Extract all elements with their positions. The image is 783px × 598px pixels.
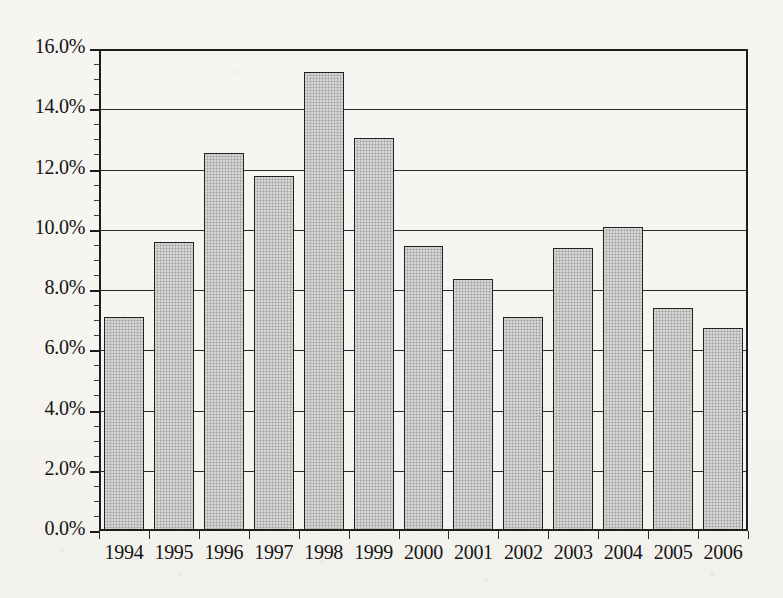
y-tick-14.0% xyxy=(90,109,99,111)
y-axis-label-4.0%: 4.0% xyxy=(0,397,85,420)
x-axis-label-2000: 2000 xyxy=(399,541,449,564)
y-tick-10.0% xyxy=(90,230,99,232)
x-tick-2005 xyxy=(648,531,649,539)
y-tick-2.0% xyxy=(90,471,99,473)
x-tick-end xyxy=(748,531,749,539)
x-tick-2004 xyxy=(598,531,599,539)
x-tick-1999 xyxy=(349,531,350,539)
x-tick-1996 xyxy=(199,531,200,539)
y-axis-label-0.0%: 0.0% xyxy=(0,517,85,540)
y-axis-label-2.0%: 2.0% xyxy=(0,457,85,480)
y-tick-0.0% xyxy=(90,531,99,533)
x-tick-1998 xyxy=(299,531,300,539)
x-tick-1997 xyxy=(249,531,250,539)
x-tick-2006 xyxy=(698,531,699,539)
x-axis-label-2004: 2004 xyxy=(598,541,648,564)
x-axis-label-1994: 1994 xyxy=(99,541,149,564)
y-tick-6.0% xyxy=(90,350,99,352)
x-axis-label-1998: 1998 xyxy=(299,541,349,564)
x-tick-1995 xyxy=(149,531,150,539)
x-axis-label-2005: 2005 xyxy=(648,541,698,564)
plot-area xyxy=(99,49,748,531)
x-axis-label-1996: 1996 xyxy=(199,541,249,564)
y-axis-label-10.0%: 10.0% xyxy=(0,216,85,239)
y-tick-4.0% xyxy=(90,411,99,413)
x-tick-2001 xyxy=(448,531,449,539)
x-tick-2002 xyxy=(498,531,499,539)
y-axis-label-8.0%: 8.0% xyxy=(0,276,85,299)
x-axis-ticks xyxy=(99,49,748,531)
x-axis-label-2006: 2006 xyxy=(698,541,748,564)
x-axis-label-1995: 1995 xyxy=(149,541,199,564)
x-axis-label-2003: 2003 xyxy=(548,541,598,564)
x-axis-label-2002: 2002 xyxy=(498,541,548,564)
x-axis-label-2001: 2001 xyxy=(448,541,498,564)
y-axis-label-16.0%: 16.0% xyxy=(0,35,85,58)
x-tick-2000 xyxy=(399,531,400,539)
y-tick-12.0% xyxy=(90,170,99,172)
x-tick-2003 xyxy=(548,531,549,539)
x-tick-1994 xyxy=(99,531,100,539)
y-axis-label-6.0%: 6.0% xyxy=(0,336,85,359)
y-tick-16.0% xyxy=(90,49,99,51)
x-axis-label-1997: 1997 xyxy=(249,541,299,564)
y-axis-label-14.0%: 14.0% xyxy=(0,95,85,118)
y-axis-label-12.0%: 12.0% xyxy=(0,156,85,179)
chart-page: 0.0%2.0%4.0%6.0%8.0%10.0%12.0%14.0%16.0%… xyxy=(0,0,783,598)
y-tick-8.0% xyxy=(90,290,99,292)
x-axis-label-1999: 1999 xyxy=(349,541,399,564)
